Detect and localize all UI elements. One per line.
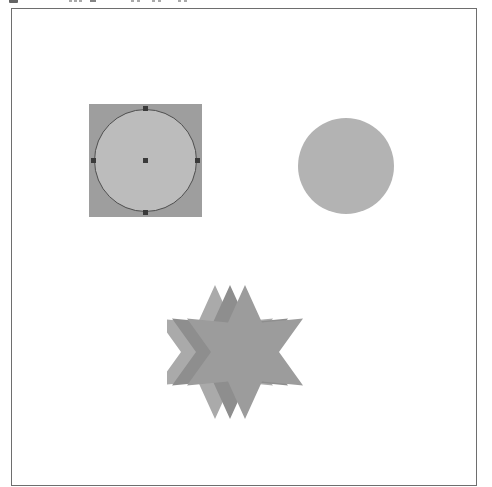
toolbar[interactable] — [0, 0, 492, 7]
resize-handle-south[interactable] — [143, 210, 148, 215]
tool-icon-6[interactable] — [131, 0, 134, 2]
tool-icon-9[interactable] — [158, 0, 161, 2]
tool-icon-5[interactable] — [90, 0, 96, 2]
tool-icon-3[interactable] — [74, 0, 77, 2]
resize-handle-east[interactable] — [195, 158, 200, 163]
tool-icon-7[interactable] — [137, 0, 140, 2]
center-handle[interactable] — [143, 158, 148, 163]
star-group-svg — [167, 274, 357, 434]
tool-icon-11[interactable] — [184, 0, 187, 2]
shape-plain-circle[interactable] — [298, 118, 394, 214]
tool-icon-8[interactable] — [152, 0, 155, 2]
tool-icon-10[interactable] — [178, 0, 181, 2]
shape-star-group[interactable] — [167, 274, 357, 434]
resize-handle-west[interactable] — [91, 158, 96, 163]
shape-selected-circle[interactable] — [89, 104, 202, 217]
tool-icon-2[interactable] — [69, 0, 72, 2]
canvas-surface[interactable] — [12, 9, 476, 485]
application-window — [0, 0, 492, 487]
tool-icon-4[interactable] — [79, 0, 82, 2]
tool-icon-1[interactable] — [9, 0, 18, 3]
resize-handle-north[interactable] — [143, 106, 148, 111]
canvas-frame[interactable] — [11, 8, 477, 486]
